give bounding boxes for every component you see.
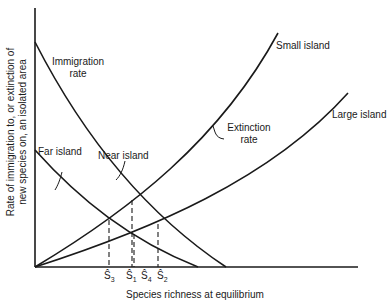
- far-island-label: Far island: [38, 146, 82, 158]
- y-axis-label-line2: new species on, an isolated area: [17, 27, 29, 237]
- y-axis-label-line1: Rate of immigration to, or extinction of: [5, 27, 17, 237]
- tick-s1: Ŝ1: [126, 270, 137, 283]
- large-island-label: Large island: [332, 109, 386, 121]
- tick-s2: Ŝ2: [157, 270, 168, 283]
- immigration-rate-label: Immigration rate: [48, 56, 108, 80]
- immigration-label-line2: rate: [48, 68, 108, 80]
- y-axis-label: Rate of immigration to, or extinction of…: [5, 27, 29, 237]
- near-island-label: Near island: [98, 150, 149, 162]
- x-axis-label: Species richness at equilibrium: [126, 289, 264, 301]
- extinction-label-line1: Extinction: [224, 122, 274, 134]
- immigration-label-line1: Immigration: [48, 56, 108, 68]
- tick-s4: Ŝ4: [141, 270, 152, 283]
- tick-s3: Ŝ3: [104, 270, 115, 283]
- small-island-label: Small island: [276, 40, 330, 52]
- extinction-label-line2: rate: [224, 134, 274, 146]
- extinction-pointer: [213, 126, 224, 139]
- extinction-rate-label: Extinction rate: [224, 122, 274, 146]
